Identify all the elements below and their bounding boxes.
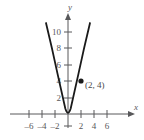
x-tick-label--4: –4 (37, 121, 48, 131)
x-tick-label-6: 6 (105, 121, 110, 131)
x-tick-label-4: 4 (92, 121, 97, 131)
y-tick-label-10: 10 (52, 27, 62, 37)
x-tick-label--2: –2 (50, 121, 60, 131)
x-tick-label--6: –6 (24, 121, 35, 131)
x-tick-label-2: 2 (79, 121, 84, 131)
point-annotation-label: (2, 4) (85, 80, 105, 90)
graph-canvas: –6 –4 –2 2 4 6 2 4 6 8 10 x y (2, 4) (0, 0, 144, 140)
y-tick-label-8: 8 (57, 43, 62, 53)
y-tick-label-2: 2 (57, 93, 62, 103)
y-axis-tick-labels: 2 4 6 8 10 (52, 27, 62, 103)
point-marker-2-4[interactable] (78, 78, 83, 83)
y-axis-label: y (67, 2, 72, 12)
parabola-figure: –6 –4 –2 2 4 6 2 4 6 8 10 x y (2, 4) (0, 0, 144, 140)
y-axis-arrow-icon (65, 13, 71, 20)
x-axis-label: x (133, 102, 138, 112)
